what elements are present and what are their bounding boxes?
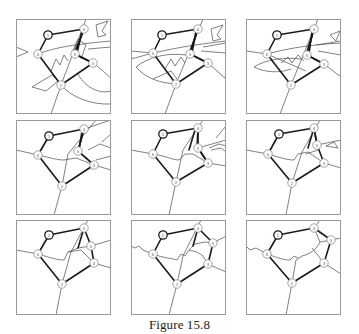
graph-node-3: 3	[204, 159, 212, 167]
graph-node-6: 6	[149, 150, 157, 158]
graph-node-2: 2	[288, 179, 296, 187]
panel-frame	[17, 20, 111, 114]
graph-diagram: 123456	[246, 120, 341, 215]
graph-edge-1-4	[49, 228, 84, 235]
region-boundary	[32, 75, 58, 91]
graph-node-4: 4	[80, 125, 88, 133]
graph-node-4: 4	[310, 124, 318, 132]
region-boundary	[61, 85, 111, 104]
region-boundary	[165, 57, 185, 69]
graph-node-2: 2	[287, 81, 295, 89]
graph-edge-3-2	[177, 264, 208, 284]
graph-node-2: 2	[173, 280, 181, 288]
panel-frame	[17, 221, 111, 315]
graph-edge-3-2	[61, 63, 93, 85]
region-boundary	[96, 156, 111, 160]
graph-edge-2-6	[38, 54, 61, 85]
graph-node-1: 1	[273, 31, 281, 39]
region-boundary	[254, 67, 291, 72]
graph-node-6: 6	[263, 50, 271, 58]
region-boundary	[201, 51, 226, 53]
panel-9: 123456	[246, 220, 341, 315]
graph-node-1: 1	[159, 231, 167, 239]
graph-node-2: 2	[57, 81, 65, 89]
graph-edge-1-4	[278, 228, 314, 235]
graph-node-4: 4	[80, 25, 88, 33]
graph-node-5: 5	[71, 50, 79, 58]
graph-node-6: 6	[264, 150, 272, 158]
region-boundary	[16, 47, 28, 57]
graph-edge-1-4	[279, 128, 314, 134]
region-boundary	[153, 71, 177, 79]
graph-edge-2-6	[268, 154, 292, 183]
graph-node-5: 5	[327, 236, 335, 244]
graph-node-4: 4	[310, 224, 318, 232]
region-boundary	[211, 148, 226, 152]
panel-4: 123456	[16, 120, 111, 215]
graph-node-5: 5	[194, 144, 202, 152]
panel-5: 123456	[131, 120, 226, 215]
graph-node-3: 3	[320, 259, 328, 267]
graph-node-3: 3	[89, 59, 97, 67]
graph-edge-2-6	[153, 154, 176, 182]
graph-node-6: 6	[34, 151, 42, 159]
graph-diagram: 123456	[246, 220, 341, 315]
region-boundary	[78, 74, 111, 92]
region-boundary	[211, 25, 223, 41]
graph-node-2: 2	[58, 182, 66, 190]
graph-node-6: 6	[149, 49, 157, 57]
panel-6: 123456	[246, 120, 341, 215]
region-boundary	[88, 47, 111, 49]
graph-edge-1-4	[277, 29, 314, 35]
panel-2: 123456	[131, 19, 226, 114]
region-boundary	[330, 31, 340, 41]
graph-node-6: 6	[263, 250, 271, 258]
graph-node-2: 2	[172, 80, 180, 88]
graph-node-4: 4	[194, 25, 202, 33]
graph-diagram: 123456	[16, 220, 111, 315]
graph-node-6: 6	[34, 250, 42, 258]
panel-frame	[247, 121, 341, 215]
graph-node-1: 1	[45, 231, 53, 239]
region-boundary	[216, 126, 226, 138]
graph-edge-2-6	[153, 254, 177, 284]
panel-frame	[132, 121, 226, 215]
region-boundary	[51, 55, 68, 71]
graph-diagram: 123456	[131, 19, 226, 114]
graph-node-1: 1	[274, 231, 282, 239]
graph-edge-1-4	[162, 29, 198, 35]
graph-edge-3-2	[291, 64, 324, 85]
graph-node-3: 3	[204, 260, 212, 268]
region-boundary	[286, 283, 292, 315]
region-boundary	[102, 134, 111, 142]
graph-node-6: 6	[149, 250, 157, 258]
graph-node-3: 3	[320, 159, 328, 167]
graph-node-5: 5	[313, 141, 321, 149]
graph-node-3: 3	[204, 59, 212, 67]
region-boundary	[56, 220, 88, 315]
graph-edge-3-2	[176, 163, 208, 182]
graph-edge-1-4	[48, 29, 84, 35]
region-boundary	[96, 21, 108, 37]
region-boundary	[88, 144, 111, 150]
graph-edge-3-2	[176, 63, 208, 84]
graph-node-3: 3	[90, 161, 98, 169]
graph-node-4: 4	[194, 224, 202, 232]
figure-caption: Figure 15.8	[0, 317, 359, 333]
graph-diagram: 123456	[16, 120, 111, 215]
panel-frame	[132, 20, 226, 114]
graph-edge-3-2	[292, 263, 324, 283]
graph-node-2: 2	[58, 280, 66, 288]
graph-edge-1-4	[49, 129, 84, 136]
panel-1: 123456	[16, 19, 111, 114]
region-boundary	[318, 51, 341, 55]
graph-node-5: 5	[209, 239, 217, 247]
graph-node-1: 1	[45, 132, 53, 140]
panel-8: 123456	[131, 220, 226, 315]
graph-diagram: 123456	[16, 19, 111, 114]
graph-node-5: 5	[186, 50, 194, 58]
graph-edge-3-2	[62, 165, 94, 186]
panel-frame	[247, 221, 341, 315]
graph-node-1: 1	[158, 31, 166, 39]
graph-edge-2-6	[153, 53, 176, 84]
